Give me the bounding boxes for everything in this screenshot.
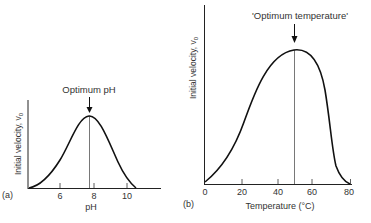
panel-b-x-label: Temperature (°C)	[245, 201, 314, 211]
panel-a-curve	[29, 116, 136, 188]
panel-b-y-label: Initial velocity, v0	[188, 36, 199, 99]
panel-a-tick-label-6: 6	[57, 191, 62, 201]
panel-b-tick-label-0: 0	[202, 187, 207, 197]
panel-b-label: (b)	[183, 199, 194, 209]
panel-a-y-label: Initial velocity, v0	[13, 112, 24, 175]
panel-b-tick-label-40: 40	[273, 187, 283, 197]
panel-b-annotation: 'Optimum temperature'	[252, 10, 348, 21]
panel-a-tick-label-8: 8	[91, 191, 96, 201]
panel-b-tick-label-60: 60	[307, 187, 317, 197]
arrow-down-icon	[292, 36, 298, 43]
panel-b-chart: 'Optimum temperature' 0 20 40 60 80 Temp…	[183, 5, 354, 211]
panel-a-tick-label-10: 10	[122, 191, 132, 201]
panel-b-curve	[205, 50, 350, 184]
panel-b-tick-label-20: 20	[237, 187, 247, 197]
panel-a-label: (a)	[2, 190, 13, 200]
figure: Optimum pH 6 8 10 pH (a) Initial velocit…	[0, 0, 371, 223]
panel-a-annotation: Optimum pH	[62, 84, 115, 95]
panel-a-x-label: pH	[85, 202, 97, 212]
panel-a-chart: Optimum pH 6 8 10 pH (a) Initial velocit…	[2, 84, 161, 212]
panel-b-tick-label-80: 80	[344, 187, 354, 197]
arrow-down-icon	[87, 107, 93, 113]
